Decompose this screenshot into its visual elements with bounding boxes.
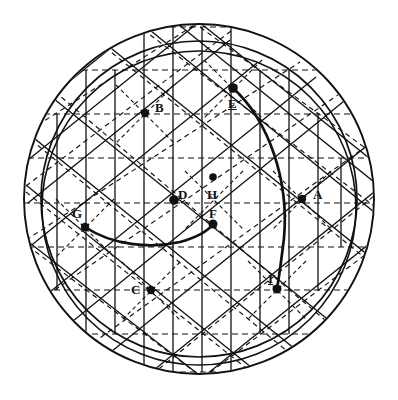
label-D: D bbox=[178, 188, 187, 201]
point-E[interactable] bbox=[228, 83, 238, 93]
label-C: C bbox=[131, 283, 140, 296]
major-arc-through-E-H-I bbox=[233, 88, 285, 289]
point-I[interactable] bbox=[273, 285, 282, 294]
figure-canvas: A B C D E F G H I bbox=[0, 0, 398, 400]
geometric-diagram bbox=[0, 0, 398, 400]
point-G[interactable] bbox=[81, 223, 89, 231]
label-F: F bbox=[209, 207, 217, 220]
point-C[interactable] bbox=[147, 286, 155, 294]
label-G: G bbox=[72, 207, 82, 220]
label-H: H bbox=[207, 188, 217, 201]
point-B[interactable] bbox=[141, 109, 149, 117]
point-A[interactable] bbox=[298, 195, 306, 203]
minor-arc-through-G-F bbox=[85, 224, 213, 245]
point-H[interactable] bbox=[209, 173, 217, 181]
label-I: I bbox=[268, 272, 273, 285]
label-E: E bbox=[228, 97, 237, 110]
label-B: B bbox=[155, 101, 164, 114]
label-A: A bbox=[313, 188, 322, 201]
